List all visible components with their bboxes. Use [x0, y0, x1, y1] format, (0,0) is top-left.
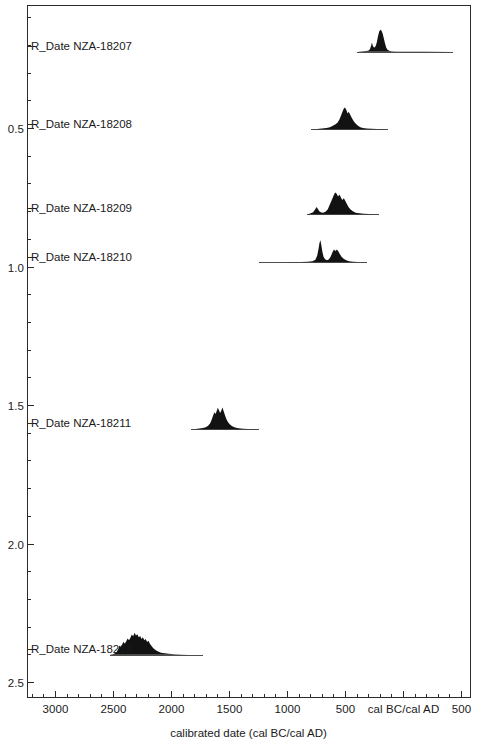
- distribution-curves: [110, 30, 453, 656]
- series-label: R_Date NZA-18211: [31, 417, 131, 429]
- x-tick-label: 1500: [217, 703, 243, 715]
- series-label: R_Date NZA-18209: [31, 202, 132, 214]
- y-tick-label: 1.0: [2, 262, 24, 274]
- probability-distribution: [357, 30, 453, 52]
- y-tick-label: 0.5: [2, 123, 24, 135]
- series-label: R_Date NZA-18210: [31, 251, 132, 263]
- x-tick-label: 500: [452, 703, 472, 715]
- probability-distribution: [191, 407, 259, 429]
- x-tick-label: 500: [336, 703, 356, 715]
- x-axis-title: calibrated date (cal BC/cal AD): [170, 727, 327, 739]
- plot-border: [28, 6, 471, 698]
- series-label: R_Date NZA-18207: [31, 40, 132, 52]
- x-tick-label: 3000: [43, 703, 69, 715]
- series-label: R_Date NZA-18212: [31, 643, 132, 655]
- y-tick-label: 2.5: [2, 677, 24, 689]
- radiocarbon-multiplot: 30002500200015001000500cal BC/cal AD5000…: [0, 0, 492, 750]
- x-tick-label: 1000: [275, 703, 301, 715]
- series-label: R_Date NZA-18208: [31, 118, 132, 130]
- plot-frame: [28, 6, 471, 698]
- probability-distribution: [259, 240, 367, 262]
- probability-distribution: [311, 107, 388, 129]
- y-tick-label: 2.0: [2, 539, 24, 551]
- x-axis-era-label: cal BC/cal AD: [368, 703, 440, 715]
- y-tick-label: 1.5: [2, 400, 24, 412]
- x-tick-label: 2500: [101, 703, 127, 715]
- probability-distribution: [307, 192, 379, 214]
- x-tick-label: 2000: [159, 703, 185, 715]
- plot-canvas: [0, 0, 492, 750]
